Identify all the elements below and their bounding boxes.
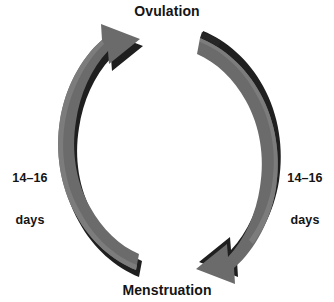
- right-duration-unit: days: [278, 213, 332, 227]
- left-arrow-body: [58, 24, 140, 270]
- label-left-duration: 14–16 days: [2, 143, 58, 255]
- right-arrow-down: [196, 31, 281, 284]
- cycle-diagram-canvas: Ovulation Menstruation 14–16 days 14–16 …: [0, 0, 334, 302]
- right-arrow-body: [196, 38, 278, 284]
- left-duration-value: 14–16: [2, 171, 58, 185]
- right-duration-value: 14–16: [278, 171, 332, 185]
- label-ovulation: Ovulation: [0, 4, 334, 20]
- label-right-duration: 14–16 days: [278, 143, 332, 255]
- left-duration-unit: days: [2, 213, 58, 227]
- label-menstruation: Menstruation: [0, 283, 334, 299]
- left-arrow-up: [58, 24, 143, 277]
